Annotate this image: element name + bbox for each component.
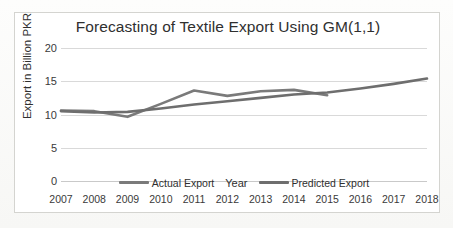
y-tick-0: 0 xyxy=(31,175,57,187)
y-tick-15: 15 xyxy=(31,75,57,87)
x-tick-2011: 2011 xyxy=(177,193,211,205)
chart-title: Forecasting of Textile Export Using GM(1… xyxy=(15,18,441,36)
x-tick-2012: 2012 xyxy=(210,193,244,205)
x-tick-2010: 2010 xyxy=(144,193,178,205)
x-axis-tick-labels: 2007200820092010201120122013201420152016… xyxy=(61,193,427,207)
legend-item-predicted-export: Predicted Export xyxy=(259,177,370,189)
x-tick-2018: 2018 xyxy=(410,193,444,205)
y-tick-20: 20 xyxy=(31,42,57,54)
y-tick-5: 5 xyxy=(31,142,57,154)
x-tick-2016: 2016 xyxy=(343,193,377,205)
legend-swatch-actual-export xyxy=(119,181,149,184)
line-predicted-export xyxy=(61,79,427,113)
series-lines xyxy=(61,48,427,181)
legend-label-actual-export: Actual Export xyxy=(152,177,214,189)
x-tick-2013: 2013 xyxy=(244,193,278,205)
x-axis-title: Year xyxy=(221,177,251,189)
x-tick-2007: 2007 xyxy=(44,193,78,205)
x-tick-2015: 2015 xyxy=(310,193,344,205)
chart-legend: Actual Export Year Predicted Export xyxy=(61,176,427,189)
x-tick-2017: 2017 xyxy=(377,193,411,205)
legend-item-actual-export: Actual Export xyxy=(119,177,214,189)
plot-area xyxy=(61,48,427,181)
x-tick-2014: 2014 xyxy=(277,193,311,205)
legend-label-predicted-export: Predicted Export xyxy=(292,177,370,189)
y-tick-10: 10 xyxy=(31,109,57,121)
y-axis-tick-labels: 05101520 xyxy=(27,48,57,181)
chart-page: Forecasting of Textile Export Using GM(1… xyxy=(0,0,453,228)
x-tick-2008: 2008 xyxy=(77,193,111,205)
legend-swatch-predicted-export xyxy=(259,181,289,184)
x-tick-2009: 2009 xyxy=(111,193,145,205)
